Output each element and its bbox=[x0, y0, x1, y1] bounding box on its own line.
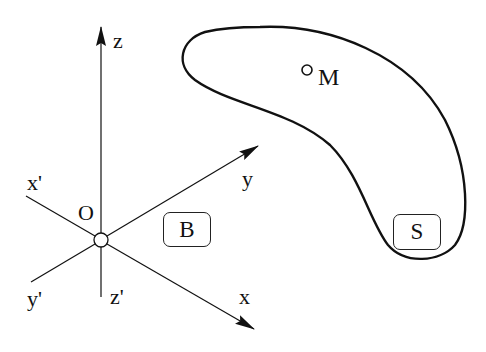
body-s-box: S bbox=[393, 214, 441, 250]
x-axis-label: x bbox=[239, 286, 250, 308]
origin-label: O bbox=[78, 202, 94, 224]
origin-point bbox=[94, 233, 108, 247]
body-s-label: S bbox=[411, 219, 424, 245]
y-prime-axis-label: y' bbox=[27, 288, 42, 310]
point-m-marker bbox=[302, 65, 312, 75]
frame-b-box: B bbox=[163, 212, 211, 247]
z-prime-axis-label: z' bbox=[110, 286, 124, 308]
x-axis-positive bbox=[107, 244, 254, 329]
x-prime-axis-label: x' bbox=[27, 172, 42, 194]
y-axis-label: y bbox=[242, 168, 253, 190]
point-m-label: M bbox=[318, 65, 339, 89]
z-axis-label: z bbox=[113, 30, 123, 52]
y-axis-negative bbox=[31, 244, 95, 282]
frame-b-label: B bbox=[179, 217, 194, 243]
